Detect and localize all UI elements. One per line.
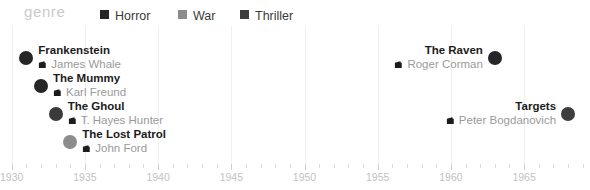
tick-major-1935 xyxy=(85,164,86,170)
tick-minor-1956 xyxy=(392,164,393,168)
time-axis: 19301935194019451950195519601965 xyxy=(0,164,590,190)
tick-label-1960: 1960 xyxy=(439,171,462,183)
event-content: The RavenRoger Corman xyxy=(394,44,501,71)
tick-minor-1953 xyxy=(348,164,349,168)
tick-minor-1933 xyxy=(56,164,57,168)
legend-item-horror[interactable]: Horror xyxy=(100,6,150,20)
tick-minor-1934 xyxy=(70,164,71,168)
tick-minor-1964 xyxy=(509,164,510,168)
tick-minor-1958 xyxy=(422,164,423,168)
event-text: The Lost PatrolJohn Ford xyxy=(82,128,166,155)
event-text: TargetsPeter Bogdanovich xyxy=(446,100,556,127)
event-director-name: T. Hayes Hunter xyxy=(81,114,163,128)
movie-camera-icon xyxy=(394,60,403,69)
tick-minor-1959 xyxy=(436,164,437,168)
event-dot[interactable] xyxy=(63,135,77,149)
event-director-name: Karl Freund xyxy=(66,86,126,100)
event-title: Targets xyxy=(515,100,556,114)
event-director: John Ford xyxy=(82,142,147,156)
tick-minor-1949 xyxy=(290,164,291,168)
event-dot[interactable] xyxy=(34,79,48,93)
legend-swatch-horror xyxy=(100,10,109,19)
legend-swatch-thriller xyxy=(240,10,249,19)
event-title: The Ghoul xyxy=(68,100,125,114)
tick-major-1930 xyxy=(12,164,13,170)
tick-minor-1957 xyxy=(407,164,408,168)
event-director-name: Peter Bogdanovich xyxy=(459,114,556,128)
gridline-1930 xyxy=(12,26,13,164)
tick-minor-1932 xyxy=(41,164,42,168)
tick-minor-1968 xyxy=(568,164,569,168)
legend-item-war[interactable]: War xyxy=(178,6,215,20)
event-content: The GhoulT. Hayes Hunter xyxy=(49,100,163,127)
event-title: The Lost Patrol xyxy=(82,128,166,142)
event-director: James Whale xyxy=(38,58,121,72)
tick-minor-1936 xyxy=(100,164,101,168)
legend-label: Horror xyxy=(115,9,150,23)
tick-minor-1962 xyxy=(480,164,481,168)
plot-area: FrankensteinJames WhaleThe MummyKarl Fre… xyxy=(0,26,590,164)
movie-camera-icon xyxy=(446,116,455,125)
tick-minor-1961 xyxy=(466,164,467,168)
event-title: The Raven xyxy=(425,44,483,58)
genre-timeline-chart: genre HorrorWarThriller FrankensteinJame… xyxy=(0,0,590,190)
event-title: The Mummy xyxy=(53,72,120,86)
tick-minor-1947 xyxy=(261,164,262,168)
tick-minor-1931 xyxy=(26,164,27,168)
event-director: T. Hayes Hunter xyxy=(68,114,163,128)
tick-label-1930: 1930 xyxy=(0,171,23,183)
tick-label-1965: 1965 xyxy=(512,171,535,183)
tick-minor-1942 xyxy=(187,164,188,168)
tick-minor-1952 xyxy=(334,164,335,168)
chart-legend: genre HorrorWarThriller xyxy=(0,0,590,26)
legend-label: War xyxy=(193,9,215,23)
tick-major-1960 xyxy=(451,164,452,170)
event-content: The MummyKarl Freund xyxy=(34,72,126,99)
tick-major-1965 xyxy=(524,164,525,170)
movie-camera-icon xyxy=(82,144,91,153)
legend-item-thriller[interactable]: Thriller xyxy=(240,6,293,20)
event-dot[interactable] xyxy=(488,51,502,65)
tick-minor-1941 xyxy=(173,164,174,168)
event-dot[interactable] xyxy=(561,107,575,121)
event-director-name: John Ford xyxy=(95,142,147,156)
tick-minor-1954 xyxy=(363,164,364,168)
movie-camera-icon xyxy=(53,88,62,97)
event-director: Roger Corman xyxy=(394,58,482,72)
event-director-name: Roger Corman xyxy=(407,58,482,72)
legend-swatch-war xyxy=(178,10,187,19)
tick-label-1935: 1935 xyxy=(73,171,96,183)
tick-minor-1938 xyxy=(129,164,130,168)
event-text: The RavenRoger Corman xyxy=(394,44,482,71)
tick-major-1945 xyxy=(231,164,232,170)
gridline-1965 xyxy=(524,26,525,164)
tick-minor-1939 xyxy=(143,164,144,168)
tick-label-1950: 1950 xyxy=(293,171,316,183)
event-content: FrankensteinJames Whale xyxy=(19,44,121,71)
event-director: Karl Freund xyxy=(53,86,126,100)
tick-minor-1943 xyxy=(202,164,203,168)
event-text: The GhoulT. Hayes Hunter xyxy=(68,100,163,127)
event-text: The MummyKarl Freund xyxy=(53,72,126,99)
movie-camera-icon xyxy=(68,116,77,125)
event-director: Peter Bogdanovich xyxy=(446,114,556,128)
event-dot[interactable] xyxy=(49,107,63,121)
event-dot[interactable] xyxy=(19,51,33,65)
event-content: TargetsPeter Bogdanovich xyxy=(446,100,575,127)
tick-minor-1967 xyxy=(553,164,554,168)
tick-major-1955 xyxy=(378,164,379,170)
event-director-name: James Whale xyxy=(51,58,121,72)
movie-camera-icon xyxy=(38,60,47,69)
event-content: The Lost PatrolJohn Ford xyxy=(63,128,166,155)
event-text: FrankensteinJames Whale xyxy=(38,44,121,71)
legend-title: genre xyxy=(24,3,65,20)
tick-label-1955: 1955 xyxy=(366,171,389,183)
event-title: Frankenstein xyxy=(38,44,110,58)
tick-major-1940 xyxy=(158,164,159,170)
tick-label-1940: 1940 xyxy=(146,171,169,183)
tick-major-1950 xyxy=(305,164,306,170)
gridline-1955 xyxy=(378,26,379,164)
tick-minor-1948 xyxy=(275,164,276,168)
tick-minor-1944 xyxy=(217,164,218,168)
tick-minor-1966 xyxy=(539,164,540,168)
